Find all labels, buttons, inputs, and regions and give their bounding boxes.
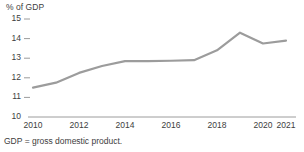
y-tick-label: 14: [3, 34, 21, 43]
x-tick-label: 2010: [24, 121, 43, 130]
line-chart-figure: % of GDP 101112131415 201020122014201620…: [0, 0, 304, 152]
y-tick-label: 15: [3, 14, 21, 23]
chart-footnote: GDP = gross domestic product.: [4, 136, 122, 146]
x-tick-label: 2020: [254, 121, 273, 130]
x-tick-label: 2018: [208, 121, 227, 130]
y-tick-label: 12: [3, 73, 21, 82]
y-tick-label: 13: [3, 53, 21, 62]
data-series-line: [33, 33, 286, 88]
y-tick-label: 11: [3, 92, 21, 101]
x-tick-label: 2012: [70, 121, 89, 130]
x-tick-label: 2016: [162, 121, 181, 130]
x-tick-label: 2021: [277, 121, 296, 130]
y-tick-label: 10: [3, 112, 21, 121]
x-tick-label: 2014: [116, 121, 135, 130]
y-axis-tick-marks: [24, 19, 30, 97]
